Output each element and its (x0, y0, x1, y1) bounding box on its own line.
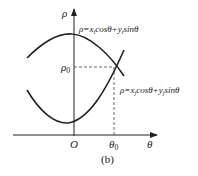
figure-caption: (b) (101, 154, 114, 165)
eq-j-lhs: ρ=x (120, 85, 134, 95)
theta-axis-label: θ (147, 139, 152, 150)
eq-j-rhs: sinθ (164, 85, 179, 95)
curve-i (27, 34, 124, 76)
eq-i-mid: cosθ+y (95, 24, 122, 34)
theta0-subscript: 0 (114, 143, 118, 152)
rho0-label: ρ0 (61, 62, 70, 73)
eq-j-mid: cosθ+y (136, 85, 163, 95)
curve-i-equation: ρ=xicosθ+yisinθ (79, 25, 138, 34)
curve-j-equation: ρ=xjcosθ+yjsinθ (120, 86, 179, 95)
eq-i-rhs: sinθ (123, 24, 138, 34)
curve-j (27, 50, 124, 123)
rho0-subscript: 0 (66, 66, 70, 75)
hough-space-diagram: ρ ρ=xicosθ+yisinθ ρ=xjcosθ+yjsinθ ρ0 O θ… (0, 0, 198, 176)
eq-i-lhs: ρ=x (79, 24, 93, 34)
rho-axis-label: ρ (62, 8, 67, 19)
origin-label: O (70, 139, 78, 150)
theta0-label: θ0 (109, 139, 118, 150)
